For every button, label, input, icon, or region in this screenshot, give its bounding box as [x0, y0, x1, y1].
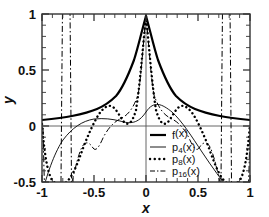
x-tick-label-1: 1 [246, 185, 253, 200]
y-axis-title: y [0, 95, 16, 105]
runge-phenomenon-plot: 1 0.5 0 -0.5 -1 -0.5 0 0.5 1 x y f(x) p4… [0, 0, 269, 217]
legend-label-f: f(x) [172, 127, 188, 141]
chart-figure: 1 0.5 0 -0.5 -1 -0.5 0 0.5 1 x y f(x) p4… [0, 0, 269, 217]
y-tick-label-neg0_5: -0.5 [14, 175, 36, 190]
x-tick-label-neg1: -1 [36, 185, 48, 200]
x-axis-title: x [141, 200, 151, 216]
y-tick-label-1: 1 [29, 7, 36, 22]
x-tick-label-0: 0 [142, 185, 149, 200]
x-tick-label-0_5: 0.5 [189, 185, 207, 200]
y-tick-label-0: 0 [29, 119, 36, 134]
y-tick-label-0_5: 0.5 [18, 63, 36, 78]
x-tick-label-neg0_5: -0.5 [83, 185, 105, 200]
